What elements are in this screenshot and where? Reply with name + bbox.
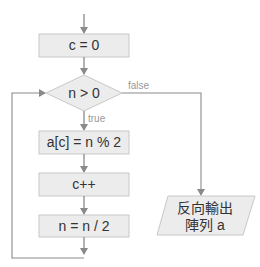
node-output[interactable]: 反向輸出 陣列 a — [157, 196, 255, 235]
node-increment-label: c++ — [72, 176, 95, 192]
node-modulo-label: a[c] = n % 2 — [47, 134, 122, 150]
node-output-line2: 陣列 a — [185, 217, 225, 233]
edge-true-label: true — [88, 113, 106, 124]
edge-false — [122, 93, 201, 195]
node-divide[interactable]: n = n / 2 — [39, 215, 129, 237]
node-modulo[interactable]: a[c] = n % 2 — [39, 131, 129, 154]
node-condition-label: n > 0 — [68, 85, 100, 101]
edge-false-label: false — [128, 80, 150, 91]
flowchart-canvas: c = 0 n > 0 false true a[c] = n % 2 c++ … — [0, 0, 260, 267]
node-divide-label: n = n / 2 — [59, 218, 110, 234]
node-init-label: c = 0 — [69, 37, 100, 53]
node-init[interactable]: c = 0 — [39, 34, 129, 57]
node-increment[interactable]: c++ — [39, 173, 129, 196]
node-output-line1: 反向輸出 — [177, 200, 233, 216]
node-condition[interactable]: n > 0 — [46, 75, 122, 111]
